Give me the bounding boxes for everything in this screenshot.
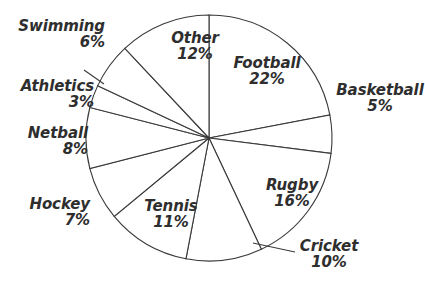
slice-label-hockey: Hockey 7%	[4, 196, 90, 228]
slice-label-football-value: 22%	[215, 71, 319, 87]
slice-label-swimming-name: Swimming	[0, 18, 105, 34]
slice-label-tennis-value: 11%	[130, 214, 212, 230]
slice-label-cricket-value: 10%	[294, 254, 364, 270]
slice-label-athletics: Athletics 3%	[0, 78, 94, 110]
slice-label-swimming: Swimming 6%	[0, 18, 105, 50]
slice-label-tennis-name: Tennis	[130, 198, 212, 214]
slice-label-athletics-value: 3%	[0, 94, 94, 110]
slice-label-hockey-name: Hockey	[4, 196, 90, 212]
slice-label-rugby-name: Rugby	[249, 177, 335, 193]
slice-label-athletics-name: Athletics	[0, 78, 94, 94]
slice-label-swimming-value: 6%	[0, 34, 105, 50]
slice-label-netball: Netball 8%	[0, 125, 88, 157]
slice-label-cricket: Cricket 10%	[294, 238, 364, 270]
slice-label-netball-value: 8%	[0, 141, 88, 157]
slice-label-rugby-value: 16%	[249, 193, 335, 209]
slice-label-rugby: Rugby 16%	[249, 177, 335, 209]
slice-label-cricket-name: Cricket	[294, 238, 364, 254]
slice-label-basketball: Basketball 5%	[334, 82, 425, 114]
slice-label-hockey-value: 7%	[4, 212, 90, 228]
slice-label-basketball-value: 5%	[334, 98, 425, 114]
slice-label-netball-name: Netball	[0, 125, 88, 141]
slice-label-tennis: Tennis 11%	[130, 198, 212, 230]
slice-label-other-name: Other	[152, 30, 238, 46]
slice-label-football: Football 22%	[215, 55, 319, 87]
pie-chart: Other 12% Football 22% Rugby 16% Tennis …	[0, 0, 425, 288]
slice-label-football-name: Football	[215, 55, 319, 71]
slice-label-basketball-name: Basketball	[334, 82, 425, 98]
